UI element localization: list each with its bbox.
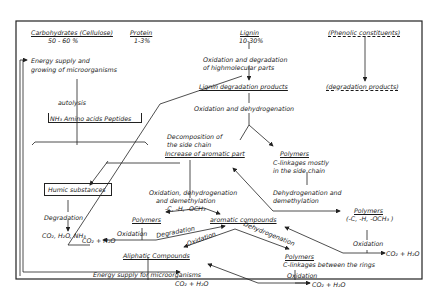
- groups-1: -C, -H, -OCH₃: [165, 205, 206, 212]
- oxidation-rings: Oxidation: [287, 272, 317, 279]
- decomposition-1: Decomposition of: [167, 133, 222, 140]
- humic-label: Humic substances: [48, 186, 106, 193]
- dehy-demeth-1: Dehydrogenation and: [273, 189, 342, 196]
- co2-left: CO₂ + H₂O: [82, 237, 115, 244]
- lignin-label: Lignin: [240, 29, 259, 36]
- co2-rings: CO₂ + H₂O: [312, 281, 345, 288]
- oxdehy-demeth-1: Oxidation, dehydrogenation: [149, 189, 237, 196]
- co2-bottom: CO₂ + H₂O: [175, 280, 208, 287]
- decomposition-2: the side chain: [167, 141, 211, 148]
- clinkage-rings: C-linkages between the rings: [283, 261, 375, 268]
- clinkage-side-2: in the side chain: [273, 167, 325, 174]
- groups-right: (-C, -H, -OCH₃ ): [346, 215, 393, 222]
- polymers-side: Polymers: [280, 150, 309, 157]
- protein-percent: 1-3%: [134, 37, 150, 44]
- oxdehy-demeth-2: and demethylation: [156, 197, 216, 204]
- co2-h2o-nh3: CO₂, H₂O, NH₃: [42, 232, 86, 239]
- energy-supply-growth-2: growing of microorganisms: [31, 66, 117, 73]
- aliphatic-compounds: Aliphatic Compounds: [123, 252, 190, 259]
- diagram-canvas: Carbohydrates (Cellulose) 50 - 60 % Prot…: [0, 0, 437, 308]
- co2-right: CO₂ + H₂O: [386, 250, 419, 257]
- autolysis-label: autolysis: [58, 99, 86, 106]
- oxidation-left: Oxidation: [117, 230, 147, 237]
- polymers-right: Polymers: [354, 207, 383, 214]
- dehy-demeth-2: demethylation: [273, 197, 319, 204]
- degradation-products: (degradation products): [326, 83, 399, 90]
- carbohydrates-percent: 50 - 60 %: [48, 37, 78, 44]
- polymers-left: Polymers: [132, 216, 161, 223]
- degradation-label: Degradation: [44, 214, 83, 221]
- increase-aromatic: Increase of aromatic part: [165, 150, 245, 157]
- energy-supply-growth-1: Energy supply and: [31, 57, 90, 64]
- clinkage-side-1: C-linkages mostly: [273, 159, 329, 166]
- lignin-percent: 10-30%: [239, 37, 263, 44]
- protein-label: Protein: [130, 29, 152, 36]
- amino-label: NH₃ Amino acids Peptides: [50, 115, 131, 122]
- phenolic-label: (Phenolic constituents): [328, 29, 400, 36]
- oxidation-degradation-1: Oxidation and degradation: [203, 56, 287, 63]
- lignin-products: Lignin degradation products: [199, 83, 288, 90]
- carbohydrates-label: Carbohydrates (Cellulose): [31, 29, 113, 36]
- polymers-rings: Polymers: [285, 253, 314, 260]
- oxidation-dehydrogenation: Oxidation and dehydrogenation: [194, 105, 294, 112]
- energy-micro: Energy supply for microorganisms: [93, 271, 201, 278]
- oxidation-degradation-2: of highmolecular parts: [203, 64, 274, 71]
- oxidation-right: Oxidation: [353, 240, 383, 247]
